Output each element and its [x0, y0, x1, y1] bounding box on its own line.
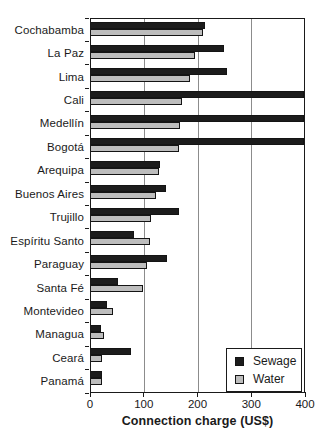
y-tick-mark — [85, 88, 89, 89]
bar-sewage — [91, 208, 179, 215]
bar-sewage — [91, 138, 304, 145]
x-tick-mark — [197, 392, 198, 397]
x-tick-label: 300 — [242, 398, 261, 410]
bar-sewage — [91, 22, 205, 29]
x-tick-label: 200 — [188, 398, 207, 410]
y-tick-mark — [85, 346, 89, 347]
x-tick-mark — [251, 392, 252, 397]
category-label: Managua — [0, 323, 84, 346]
bar-row-trujillo — [91, 206, 304, 229]
bar-sewage — [91, 371, 102, 378]
bar-sewage — [91, 231, 134, 238]
bar-sewage — [91, 301, 107, 308]
bar-row-bogot- — [91, 136, 304, 159]
bar-sewage — [91, 91, 304, 98]
bar-row-la-paz — [91, 42, 304, 65]
bar-sewage — [91, 45, 224, 52]
bar-row-medell-n — [91, 112, 304, 135]
bar-water — [91, 332, 104, 339]
bar-water — [91, 355, 102, 362]
y-tick-mark — [85, 369, 89, 370]
y-tick-mark — [85, 111, 89, 112]
x-axis-ticks — [90, 392, 305, 397]
y-tick-mark — [85, 41, 89, 42]
bar-water — [91, 378, 102, 385]
bar-water — [91, 168, 159, 175]
x-tick-label: 100 — [134, 398, 153, 410]
category-label: Santa Fé — [0, 276, 84, 299]
bar-water — [91, 52, 195, 59]
category-label: Trujillo — [0, 206, 84, 229]
bar-row-managua — [91, 322, 304, 345]
bar-row-lima — [91, 66, 304, 89]
legend-item-sewage: Sewage — [235, 354, 299, 368]
bar-water — [91, 308, 113, 315]
category-label: Bogotá — [0, 135, 84, 158]
y-tick-mark — [85, 18, 89, 19]
bar-row-cali — [91, 89, 304, 112]
bar-row-arequipa — [91, 159, 304, 182]
y-tick-mark — [85, 228, 89, 229]
bar-sewage — [91, 278, 118, 285]
y-tick-mark — [85, 135, 89, 136]
y-tick-mark — [85, 299, 89, 300]
bar-water — [91, 29, 203, 36]
bar-row-buenos-aires — [91, 182, 304, 205]
category-label: Ceará — [0, 346, 84, 369]
bar-row-montevideo — [91, 299, 304, 322]
bar-water — [91, 75, 190, 82]
category-label: Paraguay — [0, 252, 84, 275]
bar-water — [91, 238, 150, 245]
category-label: Arequipa — [0, 159, 84, 182]
legend-label: Sewage — [253, 354, 296, 368]
bar-water — [91, 98, 182, 105]
legend: SewageWater — [226, 348, 302, 392]
y-tick-mark — [85, 252, 89, 253]
y-tick-mark — [85, 322, 89, 323]
y-tick-mark — [85, 182, 89, 183]
bar-water — [91, 145, 179, 152]
bar-sewage — [91, 325, 101, 332]
legend-swatch-water — [235, 375, 244, 384]
connection-charge-bar-chart: CochabambaLa PazLimaCaliMedellínBogotáAr… — [0, 0, 328, 446]
bar-row-esp-ritu-santo — [91, 229, 304, 252]
y-tick-mark — [85, 158, 89, 159]
bar-row-santa-f- — [91, 275, 304, 298]
category-label: Buenos Aires — [0, 182, 84, 205]
x-tick-mark — [143, 392, 144, 397]
category-label: Lima — [0, 65, 84, 88]
bar-sewage — [91, 348, 131, 355]
legend-item-water: Water — [235, 372, 299, 386]
bar-water — [91, 122, 180, 129]
plot-area — [90, 18, 305, 393]
legend-label: Water — [253, 372, 285, 386]
y-tick-mark — [85, 64, 89, 65]
bar-sewage — [91, 68, 227, 75]
y-tick-mark — [85, 393, 89, 394]
category-label: Panamá — [0, 370, 84, 393]
y-tick-mark — [85, 275, 89, 276]
legend-swatch-sewage — [235, 357, 244, 366]
category-label: Medellín — [0, 112, 84, 135]
y-axis-labels: CochabambaLa PazLimaCaliMedellínBogotáAr… — [0, 18, 84, 393]
bar-row-cochabamba — [91, 19, 304, 42]
bar-water — [91, 262, 147, 269]
x-axis-tick-labels: 0100200300400 — [90, 398, 305, 412]
bar-water — [91, 215, 151, 222]
bar-sewage — [91, 255, 167, 262]
x-tick-mark — [305, 392, 306, 397]
x-tick-label: 0 — [87, 398, 93, 410]
category-label: Espíritu Santo — [0, 229, 84, 252]
bar-sewage — [91, 115, 304, 122]
x-axis-title: Connection charge (US$) — [85, 414, 310, 428]
y-tick-mark — [85, 205, 89, 206]
bar-water — [91, 192, 156, 199]
category-label: La Paz — [0, 41, 84, 64]
x-tick-mark — [90, 392, 91, 397]
bar-sewage — [91, 185, 166, 192]
bar-sewage — [91, 161, 160, 168]
bar-row-paraguay — [91, 252, 304, 275]
category-label: Cali — [0, 88, 84, 111]
category-label: Montevideo — [0, 299, 84, 322]
bar-rows — [91, 19, 304, 392]
